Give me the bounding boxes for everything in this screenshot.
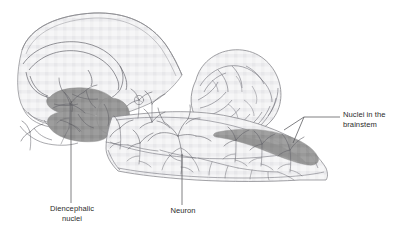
label-neuron: Neuron [150,206,216,216]
label-nuclei-in-the-brainstem: Nuclei in the brainstem [343,110,411,130]
brain-nuclei-figure: Diencephalic nuclei Neuron Nuclei in the… [0,0,413,244]
label-diencephalic-nuclei: Diencephalic nuclei [30,204,114,224]
